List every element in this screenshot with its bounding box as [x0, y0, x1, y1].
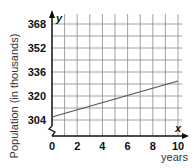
population-line-chart: 3043203363523680246810 Population (in th… [0, 0, 194, 168]
x-axis-variable: x [174, 122, 182, 134]
x-tick-label: 0 [49, 140, 55, 152]
tick-labels: 3043203363523680246810 [28, 18, 184, 152]
x-tick-label: 8 [150, 140, 156, 152]
y-tick-label: 304 [28, 114, 47, 126]
grid-lines [52, 14, 182, 136]
x-axis-arrow-icon [182, 133, 189, 139]
y-tick-label: 320 [28, 90, 46, 102]
y-tick-label: 336 [28, 66, 46, 78]
x-tick-label: 6 [125, 140, 131, 152]
x-tick-label: 2 [74, 140, 80, 152]
y-axis-arrow-icon [49, 10, 55, 18]
y-tick-label: 352 [28, 42, 46, 54]
y-axis-variable: y [55, 12, 63, 24]
x-axis-label: years [161, 151, 188, 163]
axis-break-icon [49, 126, 55, 136]
y-tick-label: 368 [28, 18, 46, 30]
x-tick-label: 4 [99, 140, 106, 152]
y-axis-label: Population (in thousands) [8, 34, 20, 159]
